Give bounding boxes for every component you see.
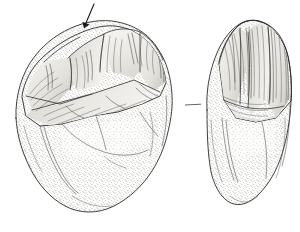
lithic-artifact-illustration <box>0 0 300 232</box>
figure-root <box>0 0 300 232</box>
